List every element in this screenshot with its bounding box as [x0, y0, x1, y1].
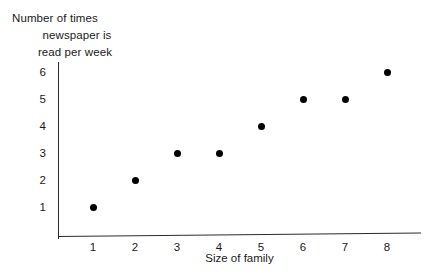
data-point [132, 177, 139, 184]
y-tick-label-6: 6 [30, 66, 46, 78]
plot-area: 1 2 3 4 5 6 1 2 3 4 5 6 7 8 [0, 0, 438, 274]
y-tick-label-2: 2 [30, 174, 46, 186]
x-axis-line [58, 233, 421, 238]
scatter-plot-figure: Number of times newspaper is read per we… [0, 0, 438, 274]
data-point [342, 96, 349, 103]
y-tick-label-4: 4 [30, 120, 46, 132]
y-tick-label-1: 1 [30, 201, 46, 213]
data-point [174, 150, 181, 157]
data-point [216, 150, 223, 157]
y-axis-line [58, 62, 59, 239]
y-tick-label-5: 5 [30, 93, 46, 105]
x-axis-title: Size of family [58, 252, 421, 265]
data-point [300, 96, 307, 103]
data-point [384, 69, 391, 76]
y-tick-label-3: 3 [30, 147, 46, 159]
data-point [90, 204, 97, 211]
data-point [258, 123, 265, 130]
